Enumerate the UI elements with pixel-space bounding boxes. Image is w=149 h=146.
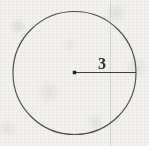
center-point-dot [73,71,76,74]
circle-diagram-figure: 3 [0,0,149,146]
geometry-drawing [0,0,149,146]
radius-length-label: 3 [98,56,106,72]
